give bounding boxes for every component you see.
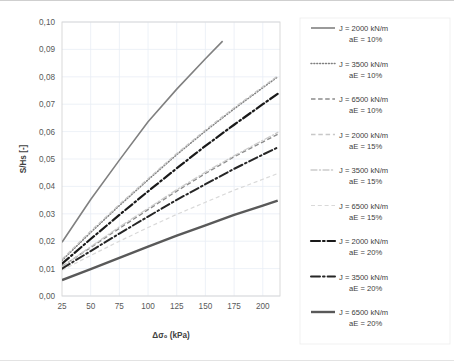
y-tick-label: 0,05 <box>39 155 55 164</box>
x-tick-label: 100 <box>141 302 155 311</box>
x-tick-label: 50 <box>86 302 96 311</box>
y-tick-label: 0,02 <box>39 237 55 246</box>
legend-label-aE-6: aE = 15% <box>349 213 382 222</box>
legend-label-J-7: J = 2000 kN/m <box>339 237 388 246</box>
plot-container: 255075100125150175200 0,000,010,020,030,… <box>0 0 454 361</box>
y-tick-label: 0,03 <box>39 210 55 219</box>
legend-label-aE-8: aE = 20% <box>349 284 382 293</box>
legend-label-aE-5: aE = 15% <box>349 177 382 186</box>
legend-label-J-3: J = 6500 kN/m <box>339 95 388 104</box>
x-tick-label: 150 <box>199 302 213 311</box>
x-tick-label: 25 <box>57 302 67 311</box>
x-axis-title: Δσ₀ (kPa) <box>152 331 190 340</box>
legend-label-J-2: J = 3500 kN/m <box>339 60 388 69</box>
legend-label-aE-7: aE = 20% <box>349 248 382 257</box>
x-tick-label: 75 <box>115 302 125 311</box>
y-tick-label: 0,07 <box>39 100 55 109</box>
legend-label-aE-4: aE = 15% <box>349 142 382 151</box>
y-axis-tick-labels: 0,000,010,020,030,040,050,060,070,080,09… <box>39 18 55 301</box>
legend-label-aE-2: aE = 10% <box>349 71 382 80</box>
x-axis-tick-labels: 255075100125150175200 <box>57 302 270 311</box>
y-tick-label: 0,08 <box>39 73 55 82</box>
legend-label-aE-9: aE = 20% <box>349 319 382 328</box>
y-tick-label: 0,01 <box>39 265 55 274</box>
x-tick-label: 175 <box>227 302 241 311</box>
legend-label-aE-1: aE = 10% <box>349 35 382 44</box>
chart-figure: 255075100125150175200 0,000,010,020,030,… <box>0 0 454 361</box>
x-tick-label: 125 <box>170 302 184 311</box>
legend-label-J-8: J = 3500 kN/m <box>339 273 388 282</box>
legend: J = 2000 kN/maE = 10%J = 3500 kN/maE = 1… <box>300 18 450 344</box>
y-tick-label: 0,00 <box>39 292 55 301</box>
y-tick-label: 0,10 <box>39 18 55 27</box>
y-axis-title: S/Hs [-] <box>19 144 28 173</box>
legend-label-aE-3: aE = 10% <box>349 106 382 115</box>
legend-label-J-1: J = 2000 kN/m <box>339 24 388 33</box>
legend-label-J-9: J = 6500 kN/m <box>339 308 388 317</box>
legend-label-J-4: J = 2000 kN/m <box>339 131 388 140</box>
x-tick-label: 200 <box>256 302 270 311</box>
legend-label-J-5: J = 3500 kN/m <box>339 166 388 175</box>
y-tick-label: 0,09 <box>39 45 55 54</box>
y-tick-label: 0,06 <box>39 128 55 137</box>
y-tick-label: 0,04 <box>39 182 55 191</box>
line-chart-svg: 255075100125150175200 0,000,010,020,030,… <box>0 0 454 361</box>
legend-label-J-6: J = 6500 kN/m <box>339 202 388 211</box>
